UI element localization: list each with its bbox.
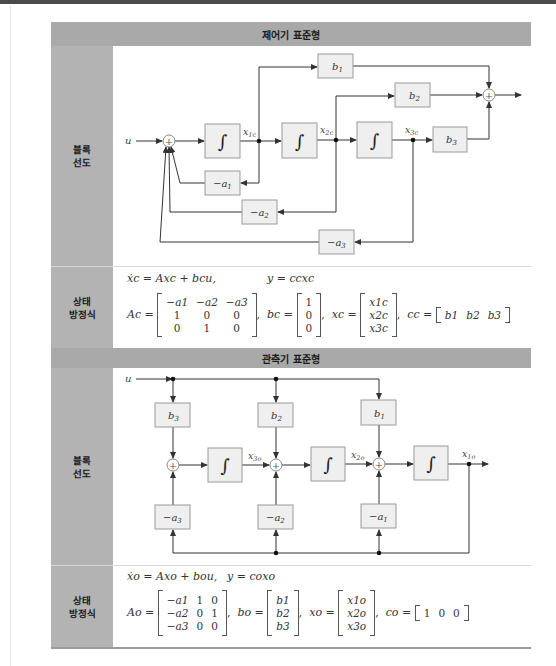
label-line: 블록 <box>73 454 91 467</box>
state-label-x1c: x1c <box>243 126 256 139</box>
state-equation-line: ẋc = Axc + bcu, <box>127 272 216 285</box>
svg-text:∫: ∫ <box>426 453 436 474</box>
svg-text:+: + <box>375 459 383 470</box>
branch-node <box>377 551 382 556</box>
label-line: 선도 <box>73 467 91 480</box>
svg-text:+: + <box>169 460 177 471</box>
row-label-state-equation: 상태방정식 <box>51 566 113 648</box>
label-line: 상태 <box>69 594 96 607</box>
svg-text:∫: ∫ <box>295 131 305 152</box>
integrator-block-1: ∫ <box>205 124 240 158</box>
vector-c-name: cc <box>407 308 419 321</box>
table-bottom-border <box>51 647 531 649</box>
integrator-block-1: ∫ <box>414 446 448 480</box>
state-equation-line: ẋo = Axo + bou, <box>127 570 217 583</box>
vector-x: x1cx2cx3c <box>360 293 396 337</box>
integrator-block-3: ∫ <box>357 122 392 158</box>
state-label-x2o: x2o <box>351 449 364 462</box>
branch-node <box>171 377 176 382</box>
svg-text:+: + <box>165 136 173 147</box>
controller-state-equation-cell: ẋc = Axc + bcu, y = ccxc Ac = −a1−a2−a31… <box>113 267 531 348</box>
integrator-block-3: ∫ <box>208 448 242 482</box>
vector-b: b1b2b3 <box>267 590 298 636</box>
feedback-block-a3: −a3 <box>319 230 354 254</box>
controller-block-diagram: + + ∫ ∫ ∫ b1 <box>113 46 531 266</box>
matrix-A-name: Ao <box>127 606 142 619</box>
gain-block-b1: b1 <box>361 400 396 425</box>
matrix-A: −a1−a2−a3100010 <box>157 293 256 337</box>
branch-node <box>274 377 279 382</box>
observer-block-diagram-cell: + + + ∫ ∫ ∫ <box>113 368 531 565</box>
row-label-block-diagram: 블록선도 <box>51 368 113 565</box>
svg-text:∫: ∫ <box>220 455 230 476</box>
integrator-block-2: ∫ <box>282 123 317 158</box>
integrator-block-2: ∫ <box>311 447 345 481</box>
feedback-block-a1: −a1 <box>205 171 240 195</box>
svg-text:∫: ∫ <box>370 130 380 151</box>
vector-b-name: bo <box>237 606 251 619</box>
matrix-A-name: Ac <box>127 308 141 321</box>
label-line: 선도 <box>73 156 91 169</box>
section-title: 관측기 표준형 <box>262 351 319 366</box>
branch-node <box>411 138 416 143</box>
summing-junction-1: + <box>373 458 385 470</box>
svg-text:∫: ∫ <box>323 454 333 475</box>
page-edge-line <box>10 6 11 666</box>
svg-text:+: + <box>485 90 493 101</box>
feedback-block-a2: −a2 <box>258 505 293 529</box>
output-equation: y = coxo <box>227 570 275 583</box>
vector-b: 100 <box>297 293 322 337</box>
label-line: 상태 <box>69 295 96 308</box>
summing-junction-output: + <box>483 89 495 101</box>
top-edge-bar <box>0 0 556 4</box>
vector-x: x1ox2ox3o <box>338 590 375 636</box>
vector-c-name: co <box>386 606 399 619</box>
summing-junction-3: + <box>167 459 179 471</box>
matrix-A: −a110−a201−a300 <box>158 590 227 636</box>
gain-block-b3: b3 <box>155 403 190 427</box>
gain-block-b2: b2 <box>258 403 293 427</box>
label-line: 방정식 <box>69 607 96 620</box>
summing-junction-input: + <box>163 135 175 147</box>
input-label-u: u <box>125 135 131 146</box>
matrix-equations: Ao = −a110−a201−a300, bo = b1b2b3, xo = … <box>127 590 469 636</box>
vector-b-name: bc <box>267 308 280 321</box>
state-label-x3o: x3o <box>248 450 261 463</box>
section-header-controller: 제어기 표준형 <box>51 22 531 46</box>
feedback-block-a3: −a3 <box>155 505 190 529</box>
state-label-x1o: x1o <box>462 448 475 461</box>
matrix-equations: Ac = −a1−a2−a3100010, bc = 100, xc = x1c… <box>127 293 510 337</box>
state-label-x2c: x2c <box>320 124 333 137</box>
row-label-state-equation: 상태방정식 <box>51 267 113 348</box>
row-label-block-diagram: 블록선도 <box>51 46 113 266</box>
controller-block-diagram-cell: + + ∫ ∫ ∫ b1 <box>113 46 531 266</box>
vector-c: 100 <box>415 605 469 621</box>
observer-block-diagram: + + + ∫ ∫ ∫ <box>113 368 531 565</box>
branch-node <box>274 551 279 556</box>
observer-state-equation-cell: ẋo = Axo + bou, y = coxo Ao = −a110−a201… <box>113 566 531 648</box>
vector-x-name: xo <box>309 606 322 619</box>
feedback-block-a2: −a2 <box>242 200 277 224</box>
vector-c: b1b2b3 <box>436 307 510 323</box>
output-equation: y = ccxc <box>267 272 314 285</box>
label-line: 방정식 <box>69 308 96 321</box>
gain-block-b1: b1 <box>318 54 353 78</box>
branch-node <box>467 462 472 467</box>
state-label-x3c: x3c <box>405 124 418 137</box>
label-line: 블록 <box>73 143 91 156</box>
input-label-u: u <box>125 373 131 384</box>
feedback-block-a1: −a1 <box>361 504 396 528</box>
vector-x-name: xc <box>332 308 344 321</box>
branch-node <box>257 139 262 144</box>
section-title: 제어기 표준형 <box>262 27 319 42</box>
svg-text:+: + <box>272 460 280 471</box>
svg-text:∫: ∫ <box>218 131 228 152</box>
branch-node <box>334 138 339 143</box>
summing-junction-2: + <box>270 459 282 471</box>
gain-block-b3: b3 <box>433 127 467 152</box>
section-header-observer: 관측기 표준형 <box>51 348 531 368</box>
gain-block-b2: b2 <box>395 83 430 107</box>
